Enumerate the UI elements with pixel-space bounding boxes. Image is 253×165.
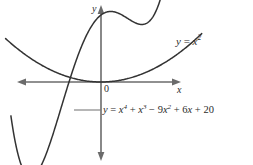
curve-label-quartic: y = x4 + x3 − 9x2 + 6x + 20 [103,105,214,116]
curve-parabola [6,34,202,82]
curve-label-parabola: y = x2 [176,36,201,47]
x-axis-arrow-left-icon [17,79,26,86]
y-axis-label: y [92,4,96,14]
origin-label: 0 [104,84,109,94]
y-axis-arrow-down-icon [98,152,105,161]
x-axis-label: x [177,85,181,95]
graph-canvas [0,0,253,165]
axes-group [17,5,181,161]
math-figure: y = x2 y = x4 + x3 − 9x2 + 6x + 20 y x 0 [0,0,253,165]
